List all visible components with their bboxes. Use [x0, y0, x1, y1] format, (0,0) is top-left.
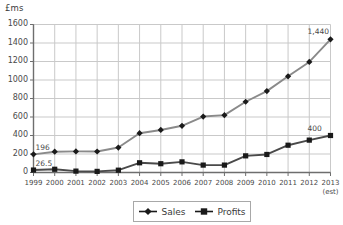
chart-container: £ms 16001400120010008006004002000 199920… [0, 0, 343, 225]
x-axis-tick-label: 2013 [319, 179, 343, 187]
legend-item-sales[interactable]: Sales [138, 206, 185, 217]
square-marker-icon [194, 206, 214, 217]
diamond-marker-icon [138, 206, 158, 217]
legend-label: Profits [217, 207, 245, 217]
y-axis-tick-label: 1200 [2, 56, 28, 65]
data-point-label: 26.5 [36, 159, 53, 168]
y-axis-tick-label: 600 [2, 112, 28, 121]
data-point-label: 400 [308, 124, 322, 133]
y-axis-tick-label: 1600 [2, 19, 28, 28]
chart-legend: SalesProfits [133, 201, 251, 222]
y-axis-tick-label: 800 [2, 93, 28, 102]
y-axis-tick-label: 1400 [2, 38, 28, 47]
legend-label: Sales [161, 207, 185, 217]
y-axis-tick-label: 1000 [2, 75, 28, 84]
y-axis-tick-label: 400 [2, 130, 28, 139]
data-point-label: 196 [36, 143, 50, 152]
data-point-label: 1,440 [308, 27, 329, 36]
y-axis-tick-label: 0 [2, 167, 28, 176]
x-axis-tick-sublabel: (est) [319, 188, 343, 196]
legend-item-profits[interactable]: Profits [194, 206, 245, 217]
y-axis-tick-label: 200 [2, 149, 28, 158]
plot-area [0, 0, 343, 225]
